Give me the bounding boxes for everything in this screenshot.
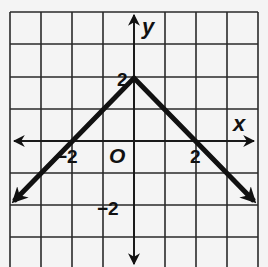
x-tick-label-pos2: 2	[190, 146, 201, 167]
x-tick-label-neg2: −2	[56, 146, 78, 167]
coordinate-graph: y x O −2 2 2 −2	[0, 0, 268, 267]
x-axis-label: x	[232, 111, 246, 136]
y-tick-label-pos2: 2	[117, 69, 128, 90]
y-tick-label-neg2: −2	[97, 198, 119, 219]
y-axis-label: y	[141, 14, 156, 39]
origin-label: O	[109, 144, 125, 167]
